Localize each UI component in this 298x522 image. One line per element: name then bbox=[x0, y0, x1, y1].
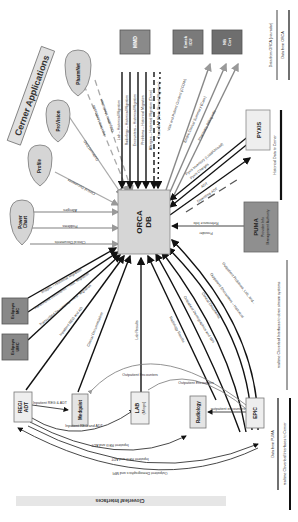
svg-text:Encounters – Historical Migrat: Encounters – Historical Migration bbox=[133, 94, 137, 147]
svg-text:Outpatient Encounters: Outpatient Encounters bbox=[178, 381, 214, 385]
architecture-diagram: Cerner Applications Power Chart Profile … bbox=[0, 0, 298, 522]
svg-text:Outbound DAD: Outbound DAD bbox=[82, 139, 99, 162]
svg-text:Provider: Provider bbox=[199, 231, 213, 235]
node-medquist[interactable]: Medquist bbox=[72, 394, 88, 426]
svg-text:Allergies – Historical Migrati: Allergies – Historical Migration (Done) bbox=[149, 90, 153, 150]
node-pyxis[interactable]: PYXIS bbox=[246, 110, 270, 150]
svg-text:outpatient encounters: outpatient encounters bbox=[211, 407, 246, 411]
svg-text:Inpatient REG and ADT: Inpatient REG and ADT bbox=[110, 457, 148, 461]
svg-text:realtime Cloverleaf Interfaces: realtime Cloverleaf Interfaces to Cerner bbox=[283, 422, 287, 486]
node-radiology[interactable]: Radiology bbox=[190, 396, 206, 428]
edges-pyxis bbox=[170, 135, 250, 215]
svg-text:(Misys): (Misys) bbox=[141, 401, 146, 415]
cloverleaf-interfaces-band: Cloverleaf Interfaces bbox=[16, 496, 226, 506]
svg-text:Historical Data to Cerner: Historical Data to Cerner bbox=[273, 135, 277, 175]
svg-text:Radiology – Historical Migrati: Radiology – Historical Migration bbox=[125, 95, 129, 146]
node-provision[interactable]: ProVision bbox=[46, 100, 70, 142]
node-eclipsys-mc[interactable]: Eclipsys MC bbox=[2, 298, 28, 324]
svg-text:Management Authority: Management Authority bbox=[266, 209, 270, 244]
svg-text:UMC: UMC bbox=[15, 342, 20, 351]
node-epic[interactable]: EPIC bbox=[246, 398, 264, 428]
svg-text:Data from PUMA: Data from PUMA bbox=[271, 430, 275, 458]
svg-text:Problems – Historical Migratio: Problems – Historical Migration bbox=[141, 95, 145, 145]
node-puma[interactable]: PUMA Provider Info Management Authority bbox=[244, 202, 278, 252]
node-orca-db[interactable]: ORCA DB bbox=[118, 190, 170, 254]
svg-text:Chart: Chart bbox=[23, 216, 28, 228]
node-emtek[interactable]: Emtek ICU bbox=[173, 30, 203, 54]
svg-text:Allergies: Allergies bbox=[63, 208, 77, 212]
svg-text:Outpatient Demographics and MP: Outpatient Demographics and MPI bbox=[112, 471, 167, 475]
svg-text:Pharmacy Billing Info: Pharmacy Billing Info bbox=[197, 110, 216, 142]
svg-text:Referrance Info: Referrance Info bbox=[194, 221, 219, 225]
svg-text:Inpatient REG & ADT: Inpatient REG & ADT bbox=[33, 401, 68, 405]
svg-text:Lab Results: Lab Results bbox=[135, 320, 139, 339]
svg-text:Inpatient REG and ADT: Inpatient REG and ADT bbox=[65, 424, 103, 428]
svg-text:Outpatient Problems, Lab, and.: Outpatient Problems, Lab, and... bbox=[221, 262, 256, 305]
svg-text:Downtime ADT: Downtime ADT bbox=[196, 186, 219, 203]
svg-text:LAB: LAB bbox=[134, 402, 140, 413]
svg-text:Lab – Historical Migration: Lab – Historical Migration bbox=[117, 100, 121, 141]
svg-text:MMD: MMD bbox=[132, 36, 138, 48]
svg-text:Cerner Applications: Cerner Applications bbox=[13, 54, 52, 137]
node-powerchart[interactable]: Power Chart bbox=[10, 200, 34, 245]
node-eclipsys-umc[interactable]: Eclipsys UMC bbox=[2, 334, 28, 360]
svg-text:Cloverleaf Interfaces: Cloverleaf Interfaces bbox=[95, 498, 144, 504]
svg-text:Clinical Documents: Clinical Documents bbox=[54, 240, 85, 244]
svg-text:Problems: Problems bbox=[62, 224, 77, 228]
svg-text:realtime Cloverleaf Interfaces: realtime Cloverleaf Interfaces to down s… bbox=[277, 282, 281, 369]
node-nb[interactable]: NB Cert bbox=[212, 30, 242, 54]
edges-outpatient-arcs bbox=[92, 364, 250, 412]
svg-text:Medquist: Medquist bbox=[78, 400, 83, 420]
svg-text:Data from ORCA: Data from ORCA bbox=[281, 31, 285, 59]
svg-text:ADT: ADT bbox=[23, 402, 29, 412]
legend: Data from ORCA (via radar) Data from ORC… bbox=[269, 10, 290, 510]
node-profile[interactable]: Profile bbox=[28, 145, 52, 186]
svg-text:Trans DAP (Data Clinical Migra: Trans DAP (Data Clinical Migration) bbox=[157, 82, 161, 139]
svg-text:PYXIS: PYXIS bbox=[256, 122, 262, 139]
svg-text:Outpatient Encounters: Outpatient Encounters bbox=[122, 373, 158, 377]
svg-text:PUMA: PUMA bbox=[253, 218, 259, 236]
svg-text:ProVision: ProVision bbox=[56, 110, 61, 131]
svg-text:PharmNet: PharmNet bbox=[76, 63, 81, 85]
svg-text:EPIC: EPIC bbox=[252, 407, 258, 419]
svg-text:Radiology: Radiology bbox=[196, 401, 201, 423]
node-pharmnet[interactable]: PharmNet bbox=[65, 50, 91, 96]
svg-text:Cert: Cert bbox=[227, 37, 232, 46]
svg-text:Provider Info: Provider Info bbox=[261, 217, 265, 237]
svg-text:MC: MC bbox=[15, 308, 20, 314]
node-reg-adt[interactable]: REG/ ADT bbox=[14, 392, 32, 422]
svg-text:Pyxis Inventory (Load/Unload): Pyxis Inventory (Load/Unload) bbox=[185, 142, 224, 176]
svg-text:ICU: ICU bbox=[188, 38, 193, 45]
svg-text:Vital and Patient Content (CCO: Vital and Patient Content (CCOW) bbox=[167, 78, 188, 131]
svg-text:ORCA: ORCA bbox=[135, 210, 144, 234]
svg-text:Clinical Documents: Clinical Documents bbox=[67, 178, 96, 196]
node-lab[interactable]: LAB (Misys) bbox=[131, 392, 149, 424]
svg-text:DB: DB bbox=[144, 216, 153, 228]
svg-text:Inpatient REG and AD: Inpatient REG and AD bbox=[59, 306, 84, 337]
node-mmd[interactable]: MMD bbox=[120, 30, 150, 54]
svg-text:Profile: Profile bbox=[37, 159, 42, 174]
svg-text:Data from ORCA (via radar): Data from ORCA (via radar) bbox=[269, 23, 273, 67]
svg-text:Inpatient REG and ADT: Inpatient REG and ADT bbox=[90, 443, 128, 447]
cerner-applications-banner: Cerner Applications bbox=[7, 46, 54, 145]
